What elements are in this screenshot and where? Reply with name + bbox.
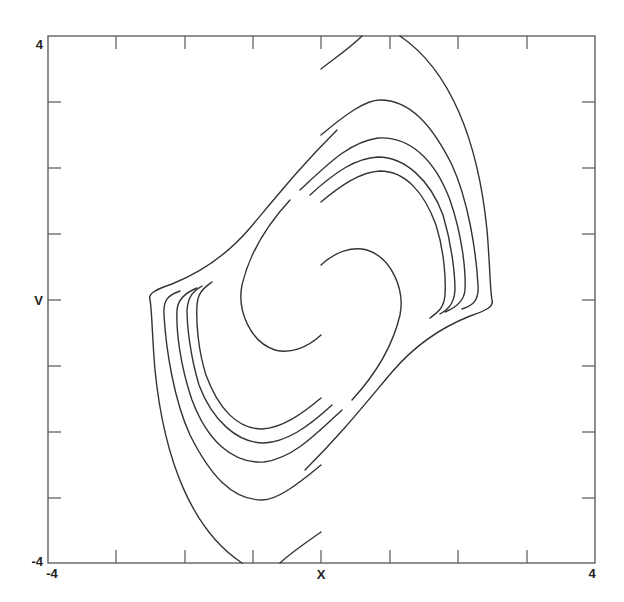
- trajectory-8: [197, 282, 321, 429]
- x-axis-label: X: [317, 567, 326, 582]
- phase-portrait-chart: 4 V -4 -4 X 4: [0, 0, 624, 602]
- y-axis-label: V: [34, 293, 43, 308]
- x-max-label: 4: [588, 566, 596, 581]
- x-min-label: -4: [46, 566, 58, 581]
- trajectory-1: [321, 36, 362, 69]
- y-min-label: -4: [31, 554, 43, 569]
- trajectory-13: [280, 532, 321, 563]
- trajectory-10: [177, 288, 342, 462]
- trajectory-5: [321, 171, 445, 318]
- trajectory-1b: [305, 36, 492, 470]
- trajectory-3: [300, 138, 465, 312]
- y-max-label: 4: [36, 37, 44, 52]
- trajectory-9: [187, 286, 332, 443]
- y-ticks-left: [48, 102, 61, 498]
- trajectories: [150, 36, 493, 563]
- plot-frame: [48, 36, 595, 563]
- trajectory-7: [241, 200, 321, 351]
- x-ticks-top: [116, 36, 527, 49]
- x-ticks-bottom: [116, 550, 527, 563]
- trajectory-4: [310, 157, 455, 314]
- trajectory-12: [150, 130, 337, 563]
- y-ticks-right: [582, 102, 595, 498]
- trajectory-6: [321, 249, 401, 400]
